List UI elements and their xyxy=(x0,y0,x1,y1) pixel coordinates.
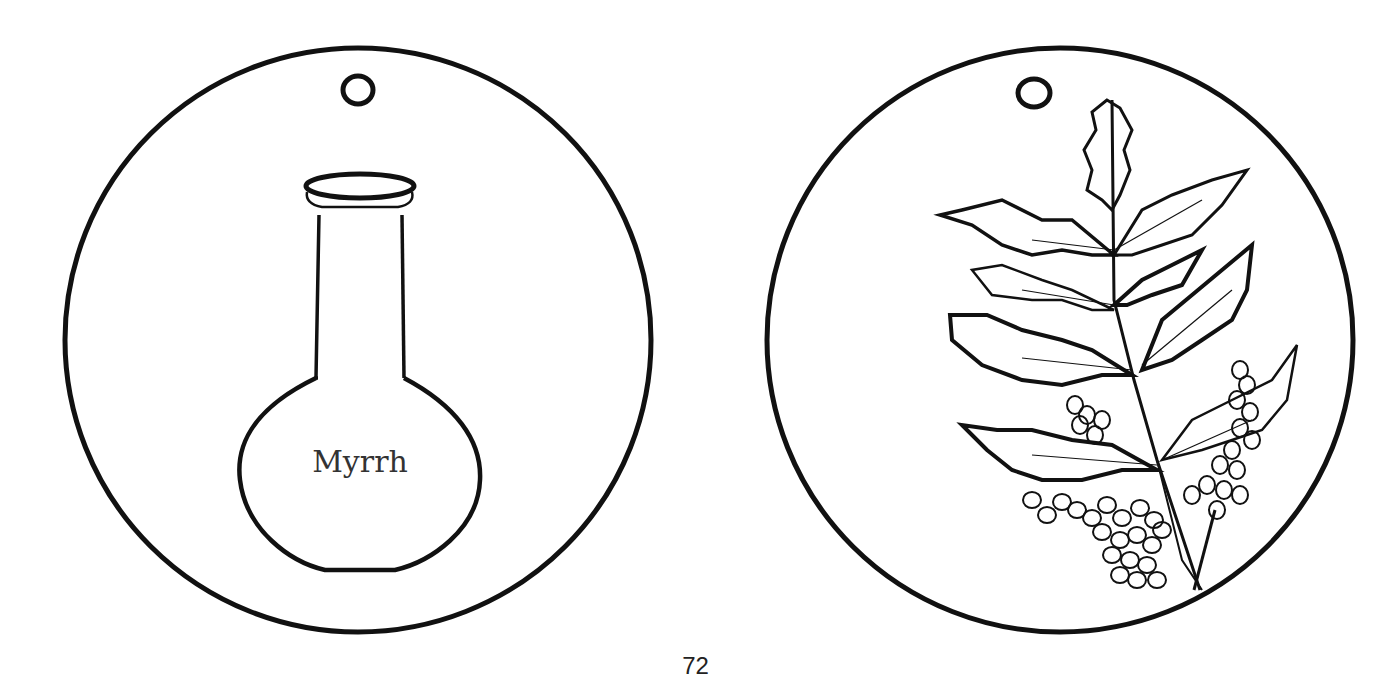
myrrh-branch-icon xyxy=(762,40,1362,640)
hanging-hole-icon xyxy=(1018,79,1050,107)
ornament-outline xyxy=(65,48,651,632)
berry-cluster xyxy=(1023,361,1260,588)
flask-label: Myrrh xyxy=(312,444,408,479)
ornament-myrrh-branch xyxy=(762,40,1362,640)
flask-icon: Myrrh xyxy=(60,40,660,640)
ornament-myrrh-flask: Myrrh xyxy=(60,40,660,640)
hanging-hole-icon xyxy=(343,76,373,104)
page-number: 72 xyxy=(0,652,1391,680)
